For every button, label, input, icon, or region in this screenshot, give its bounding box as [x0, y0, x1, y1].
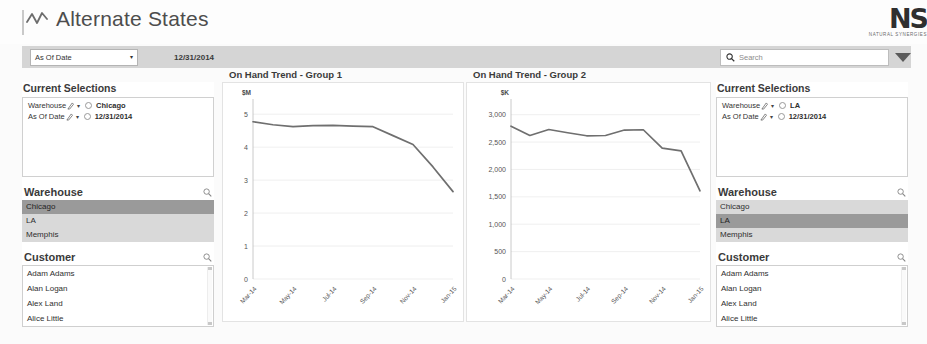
right-current-selections-box: Warehouse ▾ LA As Of Date ▾ 12/31/2014 [716, 97, 908, 177]
list-item[interactable]: Adam Adams [23, 266, 213, 281]
selection-value: 12/31/2014 [789, 112, 827, 121]
list-item[interactable]: Memphis [22, 228, 214, 242]
selection-state-dot [84, 113, 91, 120]
selection-field-label: Warehouse [28, 101, 66, 110]
right-customer-header: Customer [716, 251, 908, 263]
current-selection-row[interactable]: Warehouse ▾ Chicago [28, 101, 208, 110]
left-current-selections-title: Current Selections [23, 82, 214, 94]
selection-field-label: As Of Date [28, 112, 65, 121]
list-item[interactable]: Alex Land [23, 296, 213, 311]
page-title: Alternate States [56, 7, 209, 31]
chevron-down-icon[interactable]: ▾ [76, 113, 79, 120]
svg-text:$M: $M [242, 89, 251, 97]
svg-text:Jan-15: Jan-15 [439, 285, 458, 305]
chart-panel-group-1: On Hand Trend - Group 1 $M012345Mar-14Ma… [222, 82, 464, 322]
svg-text:Jul-14: Jul-14 [321, 285, 338, 303]
svg-text:0: 0 [244, 276, 248, 283]
chevron-down-icon[interactable]: ▾ [771, 102, 774, 109]
right-warehouse-header: Warehouse [716, 186, 908, 198]
svg-text:3: 3 [244, 177, 248, 184]
list-item[interactable]: Alex Land [717, 296, 907, 311]
scrollbar[interactable] [901, 267, 906, 325]
right-selection-panel: Current Selections Warehouse ▾ LA As Of … [716, 82, 908, 320]
warehouse-list-title: Warehouse [24, 186, 83, 198]
left-customer-header: Customer [22, 251, 214, 263]
svg-text:Sep-14: Sep-14 [358, 285, 378, 306]
eraser-icon[interactable] [761, 102, 768, 110]
current-selection-row[interactable]: Warehouse ▾ LA [722, 101, 902, 110]
customer-list-title: Customer [718, 251, 769, 263]
list-item[interactable]: Chicago [716, 200, 908, 214]
left-customer-list: Adam Adams Alan Logan Alex Land Alice Li… [22, 265, 214, 327]
chevron-down-icon[interactable]: ▾ [770, 113, 773, 120]
svg-text:Nov-14: Nov-14 [648, 285, 668, 305]
svg-text:4: 4 [244, 144, 248, 151]
list-item[interactable]: LA [716, 214, 908, 228]
search-icon[interactable] [203, 188, 212, 197]
on-hand-trend-group-2-chart: $K05001,0001,5002,0002,5003,000Mar-14May… [467, 83, 708, 319]
left-warehouse-list: Chicago LA Memphis [22, 200, 214, 242]
chevron-down-icon[interactable]: ▾ [77, 102, 80, 109]
svg-text:2,500: 2,500 [488, 139, 506, 146]
list-item[interactable]: Memphis [716, 228, 908, 242]
right-current-selections-title: Current Selections [717, 82, 908, 94]
right-warehouse-list: Chicago LA Memphis [716, 200, 908, 242]
svg-text:2,000: 2,000 [488, 166, 506, 173]
scrollbar[interactable] [207, 267, 212, 325]
list-item[interactable]: Alan Logan [717, 281, 907, 296]
search-input[interactable]: Search [720, 49, 889, 66]
list-item[interactable]: Adam Adams [717, 266, 907, 281]
svg-text:Nov-14: Nov-14 [398, 285, 418, 305]
chevron-down-icon[interactable] [895, 53, 911, 62]
logo-mark: NS [889, 7, 927, 31]
svg-text:5: 5 [244, 111, 248, 118]
current-selection-row[interactable]: As Of Date ▾ 12/31/2014 [28, 112, 208, 121]
selection-field-label: As Of Date [722, 112, 759, 121]
selection-value: 12/31/2014 [95, 112, 133, 121]
current-selection-row[interactable]: As Of Date ▾ 12/31/2014 [722, 112, 902, 121]
chevron-down-icon: ▾ [130, 54, 133, 60]
right-customer-list: Adam Adams Alan Logan Alex Land Alice Li… [716, 265, 908, 327]
search-placeholder: Search [739, 53, 763, 62]
left-selection-panel: Current Selections Warehouse ▾ Chicago A… [22, 82, 214, 320]
list-item[interactable]: Alice Little [717, 311, 907, 326]
svg-text:Mar-14: Mar-14 [239, 285, 258, 305]
chart-title: On Hand Trend - Group 2 [473, 69, 586, 80]
selection-value: Chicago [96, 101, 126, 110]
svg-text:1: 1 [244, 243, 248, 250]
list-item[interactable]: Chicago [22, 200, 214, 214]
search-icon[interactable] [203, 253, 212, 262]
search-area: Search [716, 46, 911, 68]
zigzag-line-icon [26, 10, 48, 28]
customer-list-title: Customer [24, 251, 75, 263]
left-warehouse-header: Warehouse [22, 186, 214, 198]
svg-text:Jul-14: Jul-14 [574, 285, 591, 303]
svg-text:1,500: 1,500 [488, 193, 506, 200]
svg-text:3,000: 3,000 [488, 111, 506, 118]
app-header: Alternate States NS NATURAL SYNERGIES [0, 0, 927, 44]
list-item[interactable]: Alice Little [23, 311, 213, 326]
left-current-selections-box: Warehouse ▾ Chicago As Of Date ▾ 12/31/2… [22, 97, 214, 177]
selection-state-dot [778, 113, 785, 120]
search-icon[interactable] [897, 188, 906, 197]
as-of-date-dropdown-label: As Of Date [35, 53, 72, 62]
svg-text:May-14: May-14 [278, 285, 299, 307]
eraser-icon[interactable] [67, 102, 74, 110]
title-divider [22, 10, 24, 35]
selection-state-dot [85, 102, 92, 109]
warehouse-list-title: Warehouse [718, 186, 777, 198]
list-item[interactable]: LA [22, 214, 214, 228]
list-item[interactable]: Alan Logan [23, 281, 213, 296]
svg-text:$K: $K [501, 89, 510, 97]
svg-text:1,000: 1,000 [488, 221, 506, 228]
company-logo: NS NATURAL SYNERGIES [849, 2, 927, 42]
eraser-icon[interactable] [66, 113, 73, 121]
chart-panel-group-2: On Hand Trend - Group 2 $K05001,0001,500… [466, 82, 711, 322]
search-icon[interactable] [897, 253, 906, 262]
eraser-icon[interactable] [760, 113, 767, 121]
svg-text:Mar-14: Mar-14 [497, 285, 516, 305]
svg-text:Sep-14: Sep-14 [610, 285, 630, 306]
as-of-date-dropdown[interactable]: As Of Date ▾ [30, 49, 138, 66]
svg-text:500: 500 [494, 248, 506, 255]
selection-toolbar: As Of Date ▾ 12/31/2014 Search [22, 46, 911, 68]
